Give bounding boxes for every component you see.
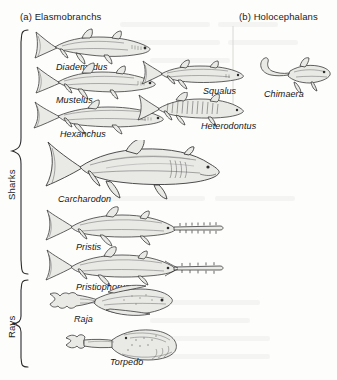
panel-heading-holocephalans: (b) Holocephalans	[239, 11, 318, 22]
group-label-rays: Rays	[6, 316, 17, 338]
bracket-sharks	[8, 28, 30, 278]
taxon-label-torpedo: Torpedo	[110, 357, 143, 367]
taxon-label-chimaera: Chimaera	[264, 89, 304, 99]
illustration-carcharodon: Carcharodon	[42, 140, 224, 202]
illustration-torpedo: Torpedo	[64, 326, 180, 364]
taxon-label-heterodontus: Heterodontus	[201, 121, 256, 131]
taxon-label-raja: Raja	[74, 314, 93, 324]
panel-heading-elasmobranchs: (a) Elasmobranchs	[20, 11, 101, 22]
illustration-heterodontus: Heterodontus	[136, 92, 246, 128]
illustration-pristis: Pristis	[44, 206, 224, 250]
illustration-chimaera: Chimaera	[256, 56, 334, 96]
taxon-label-hexanchus: Hexanchus	[60, 129, 106, 139]
taxon-label-carcharodon: Carcharodon	[58, 194, 111, 204]
figure-cartilaginous-fish-diversity: (a) Elasmobranchs (b) Holocephalans Shar…	[0, 0, 337, 380]
illustration-raja: Raja	[46, 284, 174, 322]
group-label-sharks: Sharks	[6, 169, 17, 200]
illustration-squalus: Squalus	[140, 58, 245, 92]
